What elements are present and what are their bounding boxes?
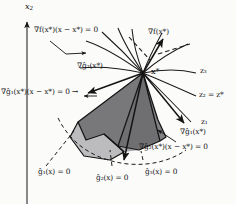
leader-grad-f-tangent xyxy=(50,41,86,54)
label-constraint-g1: ĝ₁(x) = 0 xyxy=(38,168,70,175)
label-grad-g2-tangent: ∇ĝ₂(x*)(x − x*) = 0 xyxy=(139,143,208,150)
label-constraint-g2: ĝ₂(x) = 0 xyxy=(96,174,128,181)
dashed-tangent-line xyxy=(129,37,190,60)
level-curve-z2 xyxy=(143,73,196,96)
label-level-z3: z₃ xyxy=(200,67,207,74)
label-grad-g2-vector: ∇ĝ₂(x*) xyxy=(77,62,103,69)
figure-canvas: x2 ∇f(x*)(x − x*) = 0 ∇f(x*) ∇ĝ₂(x*) ∇ĝ₁… xyxy=(0,0,236,204)
label-grad-g1-vector: ∇ĝ₁(x*) xyxy=(180,128,206,135)
label-level-z2: z₂ = z* xyxy=(199,91,224,98)
label-constraint-g3: ĝ₃(x) = 0 xyxy=(145,168,177,175)
label-grad-f-vector: ∇f(x*) xyxy=(148,28,169,35)
level-curve-upper-right-2 xyxy=(143,44,188,73)
label-grad-g1-tangent: ∇ĝ₁(x*)(x − x*) = 0 → xyxy=(1,88,78,95)
label-level-z1: z₁ xyxy=(201,118,208,125)
label-optimum-point: x* xyxy=(151,67,160,75)
axis-label-x2: x2 xyxy=(25,2,33,12)
leader-g3-dashed xyxy=(141,151,143,160)
label-grad-f-tangent: ∇f(x*)(x − x*) = 0 xyxy=(34,26,98,33)
leader-g1-dashed xyxy=(46,131,74,166)
